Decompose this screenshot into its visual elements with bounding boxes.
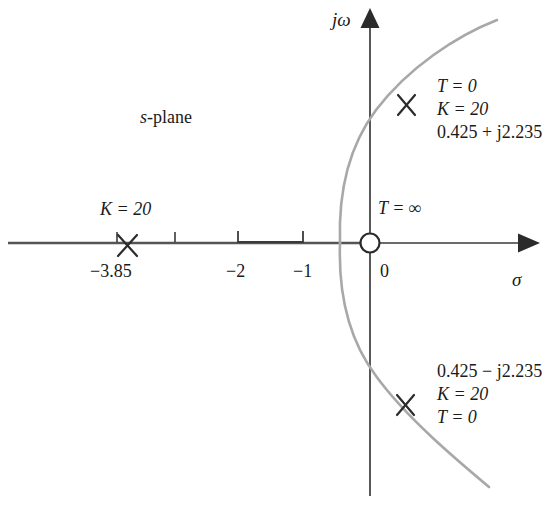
pole-marker-upper-complex — [398, 95, 415, 115]
real-axis-label: σ — [512, 268, 521, 292]
left-pole-gain-label: K = 20 — [100, 198, 151, 221]
upper-pole-value: 0.425 + j2.235 — [437, 121, 542, 144]
lower-pole-time: T = 0 — [437, 406, 542, 429]
real-axis-arrow-icon — [518, 234, 540, 253]
pole-marker-real-axis — [118, 235, 137, 256]
imaginary-axis-arrow-icon — [361, 8, 380, 28]
origin-zero-time-label: T = ∞ — [378, 197, 422, 220]
tick-label-minus-2: −2 — [226, 260, 245, 283]
tick-label-minus-1: −1 — [293, 260, 312, 283]
s-plane-label: s-plane — [140, 106, 192, 129]
upper-pole-gain: K = 20 — [437, 98, 542, 121]
tick-label-zero: 0 — [380, 260, 389, 283]
zero-marker-origin — [361, 234, 380, 253]
lower-pole-value: 0.425 − j2.235 — [437, 360, 542, 383]
root-locus-figure: s-plane jω σ K = 20 −3.85 −2 −1 0 T = ∞ … — [0, 0, 556, 511]
imaginary-axis-label: jω — [332, 8, 351, 32]
upper-pole-time: T = 0 — [437, 75, 542, 98]
lower-pole-annotation: 0.425 − j2.235 K = 20 T = 0 — [437, 360, 542, 429]
s-plane-suffix: -plane — [147, 107, 192, 127]
lower-pole-gain: K = 20 — [437, 383, 542, 406]
upper-pole-annotation: T = 0 K = 20 0.425 + j2.235 — [437, 75, 542, 144]
tick-label-minus-3-85: −3.85 — [90, 260, 132, 283]
s-plane-symbol: s — [140, 107, 147, 127]
